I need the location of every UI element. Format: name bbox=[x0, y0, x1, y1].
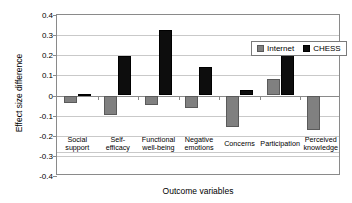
bar-group bbox=[138, 15, 179, 174]
bar-group bbox=[98, 15, 139, 174]
x-axis-tick-mark bbox=[138, 96, 139, 100]
y-axis-tick-label: -0.2 bbox=[39, 131, 53, 140]
bar-internet bbox=[64, 96, 77, 103]
legend-item-chess: CHESS bbox=[303, 44, 341, 53]
bar-group bbox=[179, 15, 220, 174]
bar-chess bbox=[78, 94, 91, 96]
bar-internet bbox=[145, 96, 158, 105]
x-axis-title: Outcome variables bbox=[56, 186, 340, 196]
bar-chess bbox=[281, 53, 294, 95]
chart-figure: Effect size difference 0.40.30.20.10-0.1… bbox=[0, 0, 352, 203]
x-axis-tick-mark bbox=[179, 96, 180, 100]
x-axis-tick-mark bbox=[300, 96, 301, 100]
bar-series-container bbox=[57, 15, 339, 174]
y-axis-tick-label: -0.1 bbox=[39, 111, 53, 120]
y-axis-tick-label: 0.1 bbox=[42, 71, 53, 80]
legend-label-chess: CHESS bbox=[313, 44, 341, 53]
bar-chess bbox=[118, 56, 131, 96]
y-axis-tick-mark bbox=[53, 176, 57, 177]
legend-label-internet: Internet bbox=[267, 44, 294, 53]
y-axis-tick-label: 0.4 bbox=[42, 11, 53, 20]
legend-item-internet: Internet bbox=[257, 44, 294, 53]
bar-internet bbox=[226, 96, 239, 128]
y-axis-title: Effect size difference bbox=[14, 18, 24, 168]
plot-area: 0.40.30.20.10-0.1-0.2-0.3-0.4 Socialsupp… bbox=[56, 14, 340, 175]
y-axis-tick-label: 0.2 bbox=[42, 51, 53, 60]
x-axis-tick-mark bbox=[260, 96, 261, 100]
x-axis-tick-mark bbox=[219, 96, 220, 100]
y-axis-tick-label: -0.4 bbox=[39, 172, 53, 181]
bar-group bbox=[300, 15, 341, 174]
bar-group bbox=[219, 15, 260, 174]
y-axis-tick-label: -0.3 bbox=[39, 151, 53, 160]
bar-chess bbox=[240, 90, 253, 96]
bar-internet bbox=[185, 96, 198, 108]
bar-group bbox=[57, 15, 98, 174]
bar-internet bbox=[104, 96, 117, 115]
legend-swatch-internet bbox=[257, 45, 264, 52]
bar-group bbox=[260, 15, 301, 174]
chart-legend: Internet CHESS bbox=[251, 41, 347, 56]
bar-internet bbox=[267, 79, 280, 96]
bar-chess bbox=[199, 67, 212, 95]
y-axis-tick-label: 0.3 bbox=[42, 31, 53, 40]
bar-internet bbox=[307, 96, 320, 131]
bar-chess bbox=[159, 30, 172, 96]
x-axis-tick-mark bbox=[98, 96, 99, 100]
legend-swatch-chess bbox=[303, 45, 310, 52]
